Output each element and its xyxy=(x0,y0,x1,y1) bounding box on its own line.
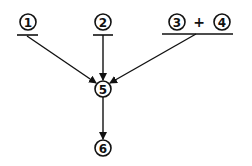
edge-34-to-5 xyxy=(110,34,196,83)
node-3-label: 3 xyxy=(173,16,181,30)
node-6-label: 6 xyxy=(99,142,107,156)
edge-1-to-5 xyxy=(27,36,96,83)
node-3: 3 xyxy=(169,14,185,30)
flow-diagram: 1 2 3 + 4 5 6 xyxy=(0,0,252,166)
node-1-label: 1 xyxy=(24,16,32,30)
node-4: 4 xyxy=(214,14,230,30)
node-4-label: 4 xyxy=(218,16,226,30)
node-6: 6 xyxy=(95,140,111,156)
node-5: 5 xyxy=(95,81,111,97)
node-5-label: 5 xyxy=(99,83,107,97)
node-2-label: 2 xyxy=(99,16,107,30)
plus-operator: + xyxy=(193,14,205,30)
node-1: 1 xyxy=(20,14,36,30)
node-2: 2 xyxy=(95,14,111,30)
